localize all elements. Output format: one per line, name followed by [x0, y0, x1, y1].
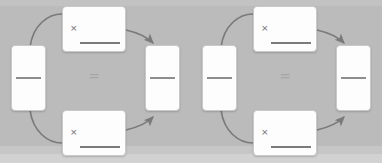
multiplier-bottom-card[interactable]: × [253, 110, 317, 156]
equals-sign: = [86, 68, 102, 84]
multiplier-top-card[interactable]: × [62, 6, 126, 52]
fraction-bar-icon [207, 77, 232, 79]
fraction-bar-icon [16, 77, 41, 79]
arrow-top-card-to-result [126, 30, 153, 43]
multiply-icon: × [70, 24, 78, 33]
arc-operand-to-top-card [221, 14, 253, 47]
multiply-icon: × [70, 128, 78, 137]
multiply-icon: × [261, 128, 269, 137]
fraction-bar-icon [341, 77, 366, 79]
fraction-diagram-panel-right: × × = [191, 0, 382, 163]
arrow-bottom-card-to-result [126, 117, 153, 130]
fraction-bar-icon [80, 146, 120, 148]
result-fraction-card[interactable] [336, 45, 371, 111]
multiplier-top-card[interactable]: × [253, 6, 317, 52]
fraction-bar-icon [80, 42, 120, 44]
diagram-canvas: × × = [0, 0, 382, 163]
arrow-top-card-to-result [317, 30, 344, 43]
fraction-bar-icon [271, 42, 311, 44]
arc-operand-to-top-card [30, 14, 62, 47]
multiplier-bottom-card[interactable]: × [62, 110, 126, 156]
operand-fraction-card[interactable] [202, 45, 237, 111]
operand-fraction-card[interactable] [11, 45, 46, 111]
multiply-icon: × [261, 24, 269, 33]
fraction-diagram-panel-left: × × = [0, 0, 191, 163]
result-fraction-card[interactable] [145, 45, 180, 111]
arc-operand-to-bottom-card [30, 110, 62, 143]
arc-operand-to-bottom-card [221, 110, 253, 143]
equals-sign: = [277, 68, 293, 84]
arrow-bottom-card-to-result [317, 117, 344, 130]
fraction-bar-icon [271, 146, 311, 148]
fraction-bar-icon [150, 77, 175, 79]
